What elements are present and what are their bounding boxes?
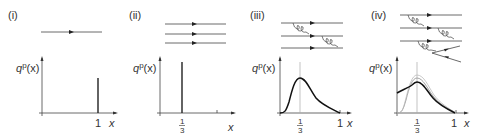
- panel-iv: (iv) qp(x): [369, 9, 470, 135]
- arrow-icon: [310, 46, 315, 50]
- tick-label-one: 1: [337, 117, 343, 129]
- panel-label: (i): [8, 9, 18, 21]
- arrow-icon: [310, 21, 315, 25]
- axes: [277, 56, 352, 116]
- arrow-icon: [427, 26, 432, 30]
- distribution-curve: [280, 78, 340, 113]
- svg-text:3: 3: [415, 126, 420, 135]
- x-axis-label: x: [108, 117, 115, 129]
- sea-quark-pair: [432, 46, 461, 62]
- panel-iii: (iii) qp(x) 1 3 1 x: [250, 9, 353, 135]
- arrow-icon: [192, 32, 197, 36]
- quark-lines: [165, 22, 226, 45]
- y-axis-label: qp(x): [252, 61, 275, 74]
- arrow-icon: [310, 34, 315, 38]
- y-axis-label: qp(x): [133, 61, 156, 74]
- axes: [394, 56, 469, 116]
- tick-label-one: 1: [95, 117, 101, 129]
- arrow-icon: [427, 39, 432, 43]
- parton-distribution-figure: (i) qp(x) 1 x (ii): [0, 0, 481, 140]
- x-axis-label: x: [227, 121, 234, 133]
- svg-text:3: 3: [298, 126, 303, 135]
- svg-text:3: 3: [180, 126, 185, 135]
- gluon-icon: [322, 36, 338, 47]
- panel-ii: (ii) qp(x) 1 3 x: [129, 9, 236, 135]
- arrow-icon: [69, 30, 74, 34]
- tick-label-one-third: 1 3: [297, 117, 303, 135]
- quark-lines: [281, 21, 343, 50]
- svg-text:1: 1: [180, 117, 185, 126]
- panel-label: (iii): [250, 9, 265, 21]
- axes: [39, 56, 118, 116]
- gluon-icon: [293, 23, 309, 34]
- svg-text:1: 1: [298, 117, 303, 126]
- valence-reference-curve-outer: [397, 75, 456, 113]
- gluon-icon: [408, 15, 424, 26]
- panel-label: (iv): [371, 9, 386, 21]
- y-axis-label: qp(x): [369, 61, 392, 74]
- axes: [157, 56, 236, 116]
- tick-label-one-third: 1 3: [414, 117, 420, 135]
- x-axis-label: x: [346, 117, 353, 129]
- distribution-curve: [397, 82, 455, 113]
- quark-line: [41, 30, 102, 34]
- arrow-icon: [427, 13, 432, 17]
- tick-label-one: 1: [451, 117, 457, 129]
- x-axis-label: x: [463, 117, 470, 129]
- y-axis-label: qp(x): [16, 61, 39, 74]
- arrow-icon: [192, 22, 197, 26]
- tick-label-one-third: 1 3: [179, 117, 185, 135]
- panel-i: (i) qp(x) 1 x: [8, 9, 118, 129]
- svg-text:1: 1: [415, 117, 420, 126]
- arrow-icon: [192, 41, 197, 45]
- gluon-icon: [438, 28, 454, 39]
- panel-label: (ii): [129, 9, 141, 21]
